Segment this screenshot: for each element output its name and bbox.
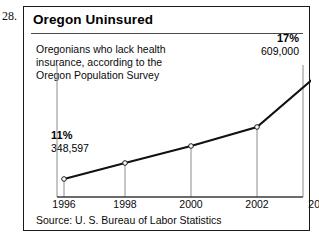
x-tick-label-1998: 1998 (113, 198, 136, 210)
caption-line-3: Oregon Population Survey (36, 69, 211, 82)
page-title: Oregon Uninsured (33, 12, 153, 27)
data-point-markers (62, 71, 311, 182)
endpoint-annotation-2004: 17% 609,000 (179, 32, 299, 58)
source-attribution: Source: U. S. Bureau of Labor Statistics (36, 214, 222, 226)
data-point-1996 (62, 177, 67, 182)
data-point-1998 (123, 161, 128, 166)
x-tick-label-1996: 1996 (52, 198, 75, 210)
caption-line-2: insurance, according to the (36, 56, 211, 69)
x-tick-label-2004: 2004 (308, 198, 319, 210)
x-axis-tick-labels: 19961998200020022004 (24, 198, 311, 214)
endpoint-percent-2004: 17% (179, 32, 299, 45)
endpoint-value-2004: 609,000 (179, 45, 299, 58)
endpoint-percent-1996: 11% (51, 129, 131, 142)
data-line (64, 73, 311, 179)
x-tick-label-2000: 2000 (179, 198, 202, 210)
figure-number: 28. (2, 9, 17, 24)
chart-panel: Oregon Uninsured Oregonians who lack hea… (23, 6, 310, 231)
x-tick-label-2002: 2002 (245, 198, 268, 210)
endpoint-annotation-1996: 11% 348,597 (51, 129, 131, 155)
endpoint-value-1996: 348,597 (51, 142, 131, 155)
data-point-2000 (189, 144, 194, 149)
data-point-2002 (255, 125, 260, 130)
